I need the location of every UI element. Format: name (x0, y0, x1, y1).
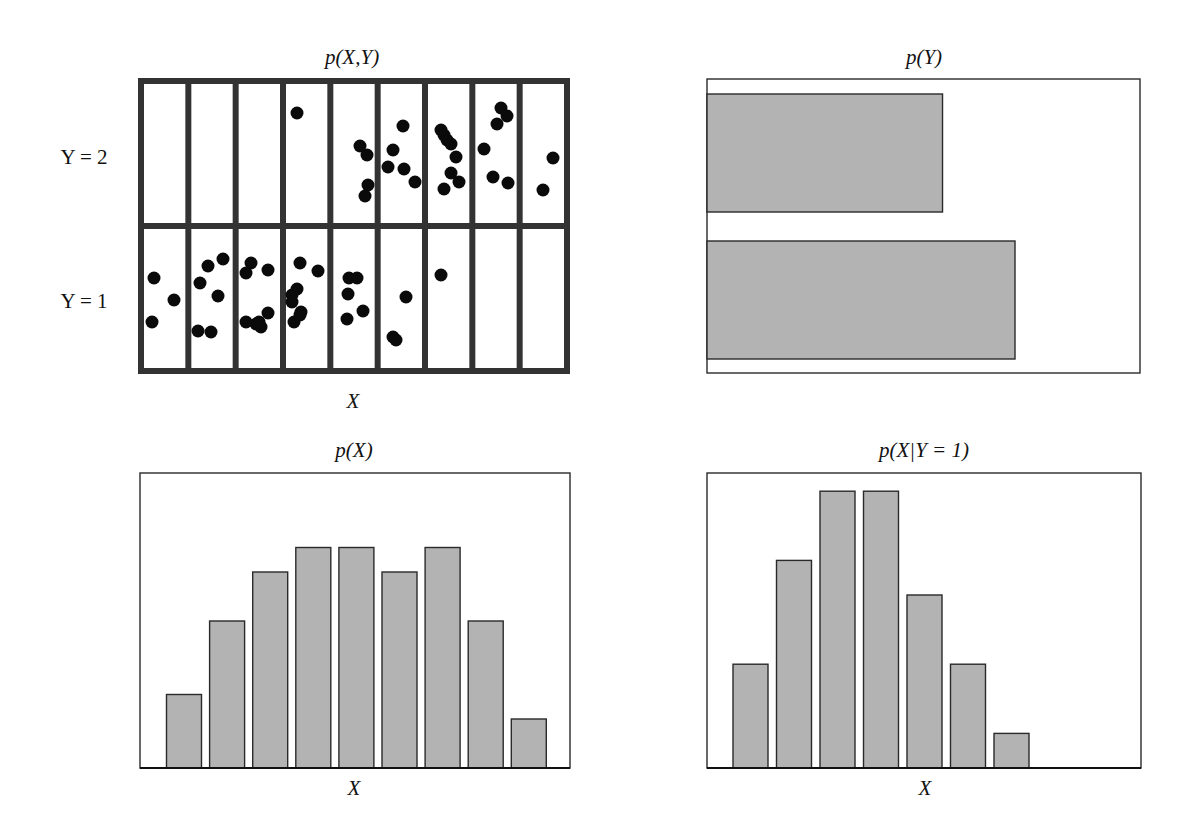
marginal-x-chart (140, 473, 570, 768)
sample-point (409, 176, 422, 189)
sample-point (438, 183, 451, 196)
sample-point (202, 260, 215, 273)
sample-point (357, 305, 370, 318)
histogram-bar (167, 695, 202, 769)
sample-point (192, 325, 205, 338)
sample-point (250, 318, 263, 331)
sample-point (398, 163, 411, 176)
sample-point (341, 313, 354, 326)
sample-point (382, 161, 395, 174)
sample-point (453, 176, 466, 189)
histogram-bar (820, 491, 855, 768)
histogram-bar (382, 572, 417, 768)
bar-y1 (707, 241, 1015, 359)
sample-point (194, 277, 207, 290)
sample-point (487, 171, 500, 184)
sample-point (435, 269, 448, 282)
sample-point (537, 184, 550, 197)
sample-point (547, 152, 560, 165)
sample-point (342, 288, 355, 301)
histogram-bar (253, 572, 288, 768)
histogram-bar (951, 664, 986, 768)
sample-point (262, 264, 275, 277)
histogram-bar (296, 548, 331, 769)
sample-point (212, 290, 225, 303)
sample-point (312, 265, 325, 278)
joint-distribution-grid (141, 81, 567, 371)
histogram-bar (777, 560, 812, 768)
sample-point (362, 179, 375, 192)
histogram-bar (339, 548, 374, 769)
figure-canvas (0, 0, 1188, 833)
sample-point (491, 118, 504, 131)
sample-point (205, 326, 218, 339)
histogram-bar (733, 664, 768, 768)
sample-point (240, 267, 253, 280)
sample-point (397, 120, 410, 133)
sample-point (478, 143, 491, 156)
sample-point (502, 177, 515, 190)
histogram-bar (425, 548, 460, 769)
sample-point (361, 149, 374, 162)
sample-point (146, 316, 159, 329)
sample-point (390, 334, 403, 347)
sample-point (148, 272, 161, 285)
histogram-bar (994, 733, 1029, 768)
histogram-bar (210, 621, 245, 768)
sample-point (351, 272, 364, 285)
sample-point (291, 107, 304, 120)
sample-point (359, 190, 372, 203)
sample-point (286, 296, 299, 309)
marginal-y-chart (707, 79, 1140, 373)
histogram-bar (907, 595, 942, 768)
histogram-bar (864, 491, 899, 768)
sample-point (217, 253, 230, 266)
sample-point (294, 257, 307, 270)
histogram-bar (468, 621, 503, 768)
sample-point (445, 138, 458, 151)
bar-y2 (707, 94, 943, 212)
histogram-bar (511, 719, 546, 768)
sample-point (400, 291, 413, 304)
conditional-chart (707, 473, 1141, 768)
sample-point (168, 294, 181, 307)
sample-point (387, 144, 400, 157)
sample-point (294, 309, 307, 322)
sample-point (450, 151, 463, 164)
